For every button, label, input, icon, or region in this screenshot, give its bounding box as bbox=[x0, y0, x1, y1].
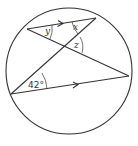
angle-arc-z bbox=[80, 37, 83, 53]
angle-arc-y bbox=[50, 25, 52, 39]
parallel-arrow-icon bbox=[73, 82, 78, 88]
label-z: z bbox=[73, 40, 79, 50]
label-y: y bbox=[44, 26, 51, 36]
circle-diagram: y x z 42° bbox=[0, 0, 138, 146]
chord-AC bbox=[27, 29, 129, 76]
label-42-degrees: 42° bbox=[28, 80, 44, 90]
label-x: x bbox=[73, 22, 78, 32]
circle bbox=[6, 8, 132, 134]
